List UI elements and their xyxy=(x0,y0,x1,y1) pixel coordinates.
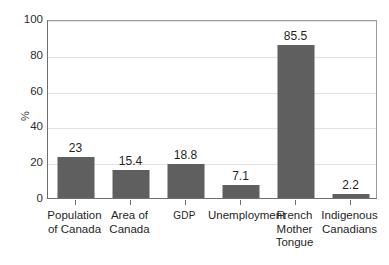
bars-layer: 2315.418.87.185.52.2 xyxy=(48,21,376,198)
bar[interactable] xyxy=(57,157,94,198)
bar[interactable] xyxy=(277,45,314,198)
y-axis-tick-label: 80 xyxy=(12,50,43,62)
y-axis-tick-labels: 020406080100 xyxy=(12,0,43,265)
bar-value-label: 85.5 xyxy=(284,30,307,42)
x-axis-tick xyxy=(185,200,186,205)
x-axis-tick xyxy=(295,200,296,205)
x-axis-category-label: GDP xyxy=(153,209,216,223)
x-axis-tick xyxy=(130,200,131,205)
x-axis-category-label-line: Population xyxy=(43,209,106,223)
x-axis-category-label-line: Canada xyxy=(98,223,161,237)
x-axis-category-label-line: Canadians xyxy=(318,223,381,237)
bar-group: 23 xyxy=(48,21,103,198)
x-axis-category-label: Populationof Canada xyxy=(43,209,106,236)
bar-value-label: 2.2 xyxy=(342,179,359,191)
y-axis-tick-label: 0 xyxy=(12,193,43,205)
bar-group: 18.8 xyxy=(158,21,213,198)
bar-chart: % 020406080100 2315.418.87.185.52.2 Popu… xyxy=(0,0,389,265)
x-axis-category-label-line: Tongue xyxy=(263,236,326,250)
bar-value-label: 23 xyxy=(69,142,82,154)
bar[interactable] xyxy=(167,164,204,198)
x-axis-category-label: Unemployment xyxy=(208,209,271,223)
bar-group: 7.1 xyxy=(213,21,268,198)
bar-value-label: 15.4 xyxy=(119,155,142,167)
x-axis-tick xyxy=(240,200,241,205)
y-axis-tick-label: 60 xyxy=(12,86,43,98)
bar-group: 15.4 xyxy=(103,21,158,198)
bar-group: 85.5 xyxy=(268,21,323,198)
bar[interactable] xyxy=(112,170,149,198)
y-axis-tick-label: 20 xyxy=(12,157,43,169)
x-axis-category-label-line: of Canada xyxy=(43,223,106,237)
x-axis-category-label-line: Unemployment xyxy=(208,209,271,223)
x-axis-category-label-line: GDP xyxy=(153,209,216,223)
bar-group: 2.2 xyxy=(323,21,378,198)
x-axis-category-label-line: French xyxy=(263,209,326,223)
x-axis-category-label: FrenchMotherTongue xyxy=(263,209,326,250)
x-axis-category-label-line: Indigenous xyxy=(318,209,381,223)
x-axis-category-label-line: Area of xyxy=(98,209,161,223)
x-axis-tick xyxy=(75,200,76,205)
bar[interactable] xyxy=(222,185,259,198)
bar-value-label: 7.1 xyxy=(232,170,249,182)
x-axis-category-label: Area ofCanada xyxy=(98,209,161,236)
x-axis-category-label: IndigenousCanadians xyxy=(318,209,381,236)
x-axis-category-label-line: Mother xyxy=(263,223,326,237)
plot-area: 2315.418.87.185.52.2 xyxy=(47,20,377,199)
y-axis-tick-label: 40 xyxy=(12,121,43,133)
bar[interactable] xyxy=(332,194,369,198)
bar-value-label: 18.8 xyxy=(174,149,197,161)
y-axis-tick-label: 100 xyxy=(12,14,43,26)
x-axis-tick xyxy=(350,200,351,205)
